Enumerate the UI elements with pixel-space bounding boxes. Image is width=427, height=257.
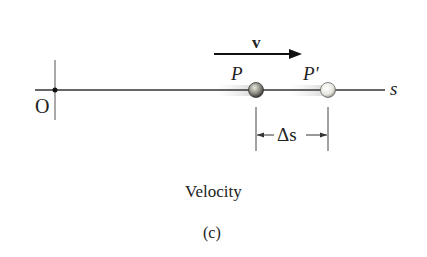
particle-p-prime [321,83,336,98]
origin-label: O [35,96,49,116]
axis-label: s [390,79,397,98]
velocity-label: v [252,34,261,51]
origin-dot [53,88,58,93]
displacement-label: Δs [277,125,297,144]
dimension-arrowhead-left-icon [257,133,264,138]
dimension-arrowhead-right-icon [320,133,327,138]
point-prime-label: P' [303,64,319,83]
arrowhead-icon [289,49,302,59]
point-label: P [231,64,243,83]
diagram-canvas [0,0,427,257]
subfigure-label: (c) [203,225,221,241]
particle-p [249,83,264,98]
caption: Velocity [185,183,242,200]
